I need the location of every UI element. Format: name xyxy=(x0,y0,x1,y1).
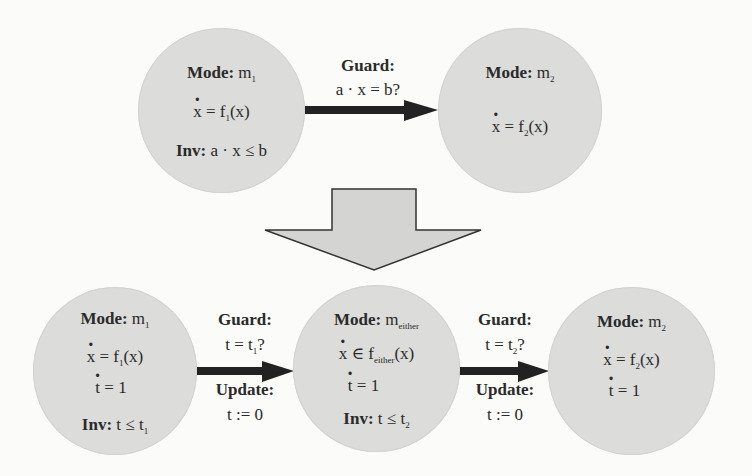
dynamics-equation: x = f1(x) xyxy=(33,347,197,367)
mode-node-m2-bottom: Mode: m2 x = f2(x) t = 1 xyxy=(548,287,715,455)
mode-title: Mode: meither xyxy=(293,310,460,330)
clock-equation: t = 1 xyxy=(534,381,715,401)
update2-expr: t := 0 xyxy=(455,405,555,425)
dynamics-inclusion: x ∈ feither(x) xyxy=(293,344,460,364)
mode-title: Mode: m1 xyxy=(33,309,197,329)
mode-node-either: Mode: meither x ∈ feither(x) t = 1 Inv: … xyxy=(293,285,460,452)
invariant: Inv: t ≤ t2 xyxy=(293,409,460,429)
mode-title: Mode: m2 xyxy=(548,312,715,332)
dynamics-equation: x = f2(x) xyxy=(548,350,715,370)
guard2-label: Guard: xyxy=(455,310,555,330)
mode-title: Mode: m2 xyxy=(438,63,602,83)
top-guard-label: Guard: xyxy=(318,56,418,76)
top-guard-expr: a · x = b? xyxy=(318,80,418,100)
guard1-label: Guard: xyxy=(195,310,295,330)
mode-node-m2-top: Mode: m2 x = f2(x) xyxy=(438,28,602,193)
dynamics-equation: x = f2(x) xyxy=(438,117,602,137)
top-transition-arrow xyxy=(305,100,438,121)
dynamics-equation: x = f1(x) xyxy=(138,102,305,122)
mode-title: Mode: m1 xyxy=(138,63,305,83)
transform-down-arrow xyxy=(265,189,481,270)
invariant: Inv: t ≤ t1 xyxy=(33,415,197,435)
guard2-expr: t = t2? xyxy=(455,335,555,355)
guard1-expr: t = t1? xyxy=(195,335,295,355)
clock-equation: t = 1 xyxy=(267,376,460,396)
update1-expr: t := 0 xyxy=(195,405,295,425)
invariant: Inv: a · x ≤ b xyxy=(138,141,305,161)
clock-equation: t = 1 xyxy=(25,378,197,398)
bottom-transition2-arrow xyxy=(459,361,549,382)
mode-node-m1-bottom: Mode: m1 x = f1(x) t = 1 Inv: t ≤ t1 xyxy=(33,287,197,455)
mode-node-m1-top: Mode: m1 x = f1(x) Inv: a · x ≤ b xyxy=(138,28,305,193)
